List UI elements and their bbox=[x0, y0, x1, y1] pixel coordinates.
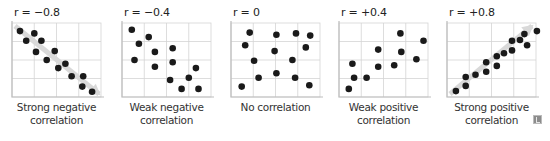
data-point bbox=[483, 59, 490, 66]
correlation-coefficient-label: r = +0.8 bbox=[449, 6, 495, 19]
data-point bbox=[38, 38, 45, 45]
data-point bbox=[483, 69, 490, 76]
data-point bbox=[31, 30, 38, 37]
caption-line: Strong positive bbox=[437, 101, 547, 114]
scatter-panel-strong-positive: r = +0.8Strong positivecorrelation bbox=[435, 0, 545, 141]
caption-line: Weak positive bbox=[329, 101, 439, 114]
data-point bbox=[136, 40, 143, 47]
data-point bbox=[186, 75, 193, 82]
data-point bbox=[391, 62, 398, 69]
data-point bbox=[398, 49, 405, 56]
data-point bbox=[23, 38, 30, 45]
data-point bbox=[420, 38, 427, 45]
data-point bbox=[89, 89, 96, 96]
trend-arrow-down-icon bbox=[15, 26, 101, 95]
data-point bbox=[17, 28, 24, 35]
data-point bbox=[242, 42, 249, 49]
data-point bbox=[462, 74, 469, 81]
data-points bbox=[453, 28, 541, 95]
caption-line: Strong negative bbox=[2, 101, 112, 114]
data-point bbox=[152, 49, 159, 56]
panel-caption: Weak positivecorrelation bbox=[329, 101, 439, 127]
data-point bbox=[375, 63, 382, 70]
data-point bbox=[131, 57, 138, 64]
panel-caption: No correlation bbox=[221, 101, 331, 114]
panel-caption: Strong negativecorrelation bbox=[2, 101, 112, 127]
data-point bbox=[521, 31, 528, 38]
data-point bbox=[292, 75, 299, 82]
data-point bbox=[494, 53, 501, 60]
data-point bbox=[375, 46, 382, 53]
scatter-panel-no-correlation: r = 0No correlation bbox=[219, 0, 329, 141]
data-point bbox=[293, 30, 300, 37]
caption-line: No correlation bbox=[221, 101, 331, 114]
caption-line: correlation bbox=[112, 114, 222, 127]
data-point bbox=[509, 38, 516, 45]
data-point bbox=[509, 47, 516, 54]
scatter-panel-weak-negative: r = −0.4Weak negativecorrelation bbox=[110, 0, 220, 141]
data-point bbox=[273, 70, 280, 77]
data-point bbox=[195, 86, 202, 93]
data-point bbox=[346, 86, 353, 93]
correlation-coefficient-label: r = 0 bbox=[233, 6, 260, 19]
data-point bbox=[169, 45, 176, 52]
caption-line: correlation bbox=[437, 114, 547, 127]
panel-caption: Weak negativecorrelation bbox=[112, 101, 222, 127]
data-point bbox=[413, 56, 420, 63]
data-point bbox=[152, 63, 159, 70]
data-point bbox=[397, 30, 404, 37]
correlation-coefficient-label: r = +0.4 bbox=[341, 6, 387, 19]
data-point bbox=[43, 57, 50, 64]
data-point bbox=[68, 73, 75, 80]
data-point bbox=[79, 83, 86, 90]
caption-line: correlation bbox=[2, 114, 112, 127]
correlation-coefficient-label: r = −0.4 bbox=[124, 6, 170, 19]
data-point bbox=[167, 77, 174, 84]
data-point bbox=[169, 59, 176, 66]
data-point bbox=[534, 28, 541, 35]
data-point bbox=[255, 75, 262, 82]
data-point bbox=[251, 57, 258, 64]
data-point bbox=[306, 82, 313, 89]
data-point bbox=[178, 86, 185, 93]
data-point bbox=[303, 44, 310, 51]
image-credit-icon[interactable] bbox=[533, 115, 542, 124]
data-point bbox=[33, 49, 40, 56]
data-point bbox=[246, 29, 253, 36]
data-point bbox=[349, 60, 356, 67]
data-point bbox=[472, 72, 479, 79]
data-point bbox=[273, 32, 280, 39]
data-point bbox=[307, 32, 314, 39]
data-point bbox=[524, 42, 531, 49]
data-point bbox=[494, 63, 501, 70]
data-point bbox=[55, 65, 62, 72]
data-point bbox=[80, 73, 87, 80]
data-point bbox=[517, 37, 524, 44]
scatter-panel-strong-negative: r = −0.8Strong negativecorrelation bbox=[0, 0, 110, 141]
caption-line: Weak negative bbox=[112, 101, 222, 114]
data-point bbox=[289, 57, 296, 64]
data-points bbox=[129, 26, 202, 92]
data-point bbox=[363, 75, 370, 82]
scatter-panel-weak-positive: r = +0.4Weak positivecorrelation bbox=[327, 0, 437, 141]
data-point bbox=[462, 83, 469, 90]
data-points bbox=[346, 30, 427, 92]
data-point bbox=[501, 50, 508, 57]
data-point bbox=[351, 75, 358, 82]
data-point bbox=[51, 48, 58, 55]
data-point bbox=[271, 48, 278, 55]
correlation-coefficient-label: r = −0.8 bbox=[14, 6, 60, 19]
data-point bbox=[453, 88, 460, 95]
caption-line: correlation bbox=[329, 114, 439, 127]
data-point bbox=[193, 65, 200, 72]
panel-caption: Strong positivecorrelation bbox=[437, 101, 547, 127]
data-point bbox=[145, 34, 152, 41]
data-point bbox=[62, 60, 69, 67]
data-point bbox=[129, 26, 136, 33]
data-point bbox=[238, 83, 245, 90]
